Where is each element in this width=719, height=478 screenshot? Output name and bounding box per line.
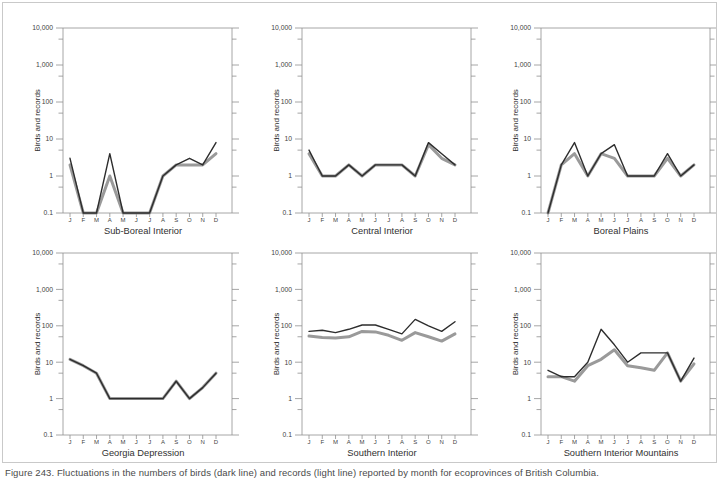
y-tick-label: 100 bbox=[281, 98, 293, 105]
y-axis-label: Birds and records bbox=[272, 89, 281, 152]
x-tick-label: A bbox=[400, 217, 404, 223]
x-tick-label: A bbox=[400, 439, 404, 445]
x-tick-label: N bbox=[679, 217, 683, 223]
y-tick-label: 0.1 bbox=[44, 431, 54, 438]
chart-svg-sub-boreal-interior: 10,0001,0001001010.1JFMAMJJASONDBirds an… bbox=[3, 3, 242, 238]
y-tick-label: 0.1 bbox=[522, 431, 532, 438]
x-tick-label: J bbox=[69, 217, 72, 223]
x-tick-label: A bbox=[586, 439, 590, 445]
y-tick-label: 10 bbox=[45, 359, 53, 366]
y-tick-label: 10,000 bbox=[271, 249, 292, 256]
x-tick-label: A bbox=[161, 217, 165, 223]
x-tick-label: J bbox=[626, 217, 629, 223]
x-tick-label: J bbox=[135, 439, 138, 445]
axes bbox=[56, 28, 239, 217]
x-tick-label: D bbox=[692, 217, 697, 223]
chart-title: Southern Interior Mountains bbox=[564, 448, 679, 458]
y-tick-label: 0.1 bbox=[283, 209, 293, 216]
x-tick-label: S bbox=[413, 439, 417, 445]
x-tick-label: D bbox=[214, 439, 219, 445]
x-tick-label: N bbox=[440, 217, 444, 223]
x-tick-label: M bbox=[94, 439, 99, 445]
x-tick-label: D bbox=[214, 217, 219, 223]
y-tick-label: 1,000 bbox=[36, 61, 53, 68]
x-tick-label: M bbox=[333, 439, 338, 445]
x-tick-label: S bbox=[652, 439, 656, 445]
x-tick-label: S bbox=[413, 217, 417, 223]
x-tick-label: O bbox=[426, 439, 431, 445]
y-tick-label: 10 bbox=[45, 135, 53, 142]
x-tick-label: S bbox=[174, 217, 178, 223]
x-tick-label: J bbox=[613, 217, 616, 223]
x-tick-label: O bbox=[665, 217, 670, 223]
x-tick-label: A bbox=[639, 217, 643, 223]
y-axis-label: Birds and records bbox=[272, 313, 281, 376]
chart-title: Southern Interior bbox=[347, 448, 416, 458]
x-tick-label: J bbox=[308, 439, 311, 445]
axes bbox=[534, 28, 717, 217]
chart-svg-southern-interior: 10,0001,0001001010.1JFMAMJJASONDBirds an… bbox=[242, 238, 481, 462]
series-line-birds-dark bbox=[70, 359, 216, 398]
x-tick-label: O bbox=[187, 217, 192, 223]
y-tick-label: 1 bbox=[527, 172, 531, 179]
chart-svg-central-interior: 10,0001,0001001010.1JFMAMJJASONDBirds an… bbox=[242, 3, 481, 238]
x-tick-label: M bbox=[572, 217, 577, 223]
x-tick-label: S bbox=[652, 217, 656, 223]
figure-frame: 10,0001,0001001010.1JFMAMJJASONDBirds an… bbox=[2, 2, 717, 463]
x-tick-label: A bbox=[108, 439, 112, 445]
chart-title: Sub-Boreal Interior bbox=[104, 226, 182, 236]
y-tick-label: 1 bbox=[49, 395, 53, 402]
y-tick-label: 1,000 bbox=[275, 286, 292, 293]
x-tick-label: M bbox=[121, 439, 126, 445]
x-tick-label: J bbox=[69, 439, 72, 445]
y-tick-label: 1 bbox=[527, 395, 531, 402]
y-tick-label: 10,000 bbox=[510, 249, 531, 256]
x-tick-label: N bbox=[679, 439, 683, 445]
y-axis-label: Birds and records bbox=[33, 313, 42, 376]
x-tick-label: M bbox=[572, 439, 577, 445]
x-tick-label: J bbox=[613, 439, 616, 445]
y-tick-label: 0.1 bbox=[522, 209, 532, 216]
x-tick-label: M bbox=[121, 217, 126, 223]
x-tick-label: D bbox=[453, 439, 458, 445]
x-tick-label: O bbox=[187, 439, 192, 445]
series-line-birds-dark bbox=[548, 143, 694, 213]
x-tick-label: J bbox=[626, 439, 629, 445]
x-tick-label: J bbox=[148, 217, 151, 223]
x-tick-label: M bbox=[599, 217, 604, 223]
y-tick-label: 10,000 bbox=[271, 24, 292, 31]
axes bbox=[295, 28, 478, 217]
y-tick-label: 10 bbox=[523, 359, 531, 366]
y-tick-label: 10 bbox=[284, 359, 292, 366]
x-tick-label: J bbox=[374, 217, 377, 223]
y-tick-label: 1,000 bbox=[36, 286, 53, 293]
y-tick-label: 10 bbox=[523, 135, 531, 142]
y-tick-label: 100 bbox=[281, 322, 293, 329]
x-tick-label: J bbox=[135, 217, 138, 223]
x-tick-label: D bbox=[453, 217, 458, 223]
x-tick-label: A bbox=[108, 217, 112, 223]
y-tick-label: 100 bbox=[42, 322, 54, 329]
series-line-records-grey bbox=[309, 145, 455, 176]
x-tick-label: D bbox=[692, 439, 697, 445]
x-tick-label: A bbox=[639, 439, 643, 445]
y-tick-label: 10,000 bbox=[510, 24, 531, 31]
x-tick-label: F bbox=[559, 217, 563, 223]
chart-grid: 10,0001,0001001010.1JFMAMJJASONDBirds an… bbox=[3, 3, 717, 462]
x-tick-label: A bbox=[347, 217, 351, 223]
x-tick-label: J bbox=[547, 439, 550, 445]
x-tick-label: N bbox=[201, 217, 205, 223]
x-tick-label: F bbox=[81, 217, 85, 223]
y-tick-label: 0.1 bbox=[283, 431, 293, 438]
x-tick-label: N bbox=[440, 439, 444, 445]
series-line-records-grey bbox=[309, 331, 455, 341]
y-axis-label: Birds and records bbox=[33, 89, 42, 152]
x-tick-label: F bbox=[559, 439, 563, 445]
x-tick-label: F bbox=[320, 439, 324, 445]
y-tick-label: 1,000 bbox=[514, 61, 531, 68]
y-tick-label: 1,000 bbox=[275, 61, 292, 68]
x-tick-label: M bbox=[360, 439, 365, 445]
y-tick-label: 1 bbox=[49, 172, 53, 179]
chart-panel-georgia-depression: 10,0001,0001001010.1JFMAMJJASONDBirds an… bbox=[3, 238, 242, 462]
axes bbox=[56, 253, 239, 439]
